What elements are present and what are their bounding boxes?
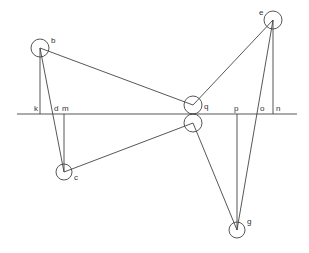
- segment: [40, 48, 64, 172]
- node-label-c: c: [74, 173, 78, 182]
- baseline-label-p: p: [234, 104, 239, 113]
- baseline-label-k: k: [34, 104, 39, 113]
- segment: [40, 48, 193, 105]
- diagram-svg: becgqkdmpon: [0, 0, 309, 253]
- nodes: [31, 11, 282, 238]
- baseline-label-m: m: [62, 104, 69, 113]
- node-label-g: g: [247, 217, 251, 226]
- segments: [17, 20, 297, 230]
- baseline-label-o: o: [260, 104, 265, 113]
- node-label-q-upper: q: [204, 102, 208, 111]
- segment: [64, 123, 193, 172]
- baseline-label-n: n: [276, 104, 280, 113]
- segment: [237, 20, 273, 230]
- node-label-e: e: [259, 8, 264, 17]
- node-label-b: b: [51, 36, 56, 45]
- baseline-label-d: d: [54, 104, 58, 113]
- geometry-diagram: becgqkdmpon: [0, 0, 309, 253]
- segment: [193, 123, 237, 230]
